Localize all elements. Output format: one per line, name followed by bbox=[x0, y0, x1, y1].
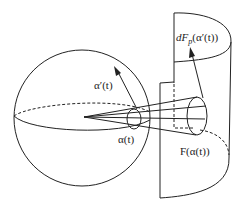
arrowhead-dF-icon bbox=[189, 47, 195, 58]
label-alpha-prime: α′(t) bbox=[94, 80, 113, 91]
label-dF: dFp(α′(t)) bbox=[176, 32, 218, 46]
arrowhead-alpha-icon bbox=[114, 66, 121, 76]
label-alpha: α(t) bbox=[118, 134, 134, 145]
label-dF-main: dF bbox=[176, 31, 188, 43]
label-dF-arg: (α′(t)) bbox=[192, 31, 218, 43]
label-F-alpha: F(α(t)) bbox=[180, 146, 210, 157]
surface-right-edge bbox=[229, 42, 231, 158]
tangent-vector-alpha bbox=[118, 72, 137, 109]
surface-hidden-vertical bbox=[174, 84, 193, 128]
surface-front-edge bbox=[160, 82, 174, 198]
tangent-vector-dF bbox=[192, 54, 203, 98]
sphere-equator-back bbox=[14, 103, 150, 116]
image-circle-F bbox=[187, 97, 207, 135]
cone-line-4 bbox=[84, 117, 196, 135]
surface-bottom-curve bbox=[160, 158, 229, 198]
diagram: α′(t) α(t) dFp(α′(t)) F(α(t)) bbox=[0, 0, 241, 209]
